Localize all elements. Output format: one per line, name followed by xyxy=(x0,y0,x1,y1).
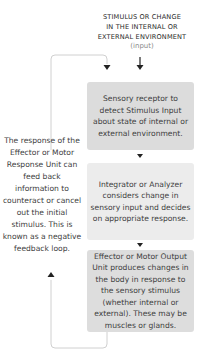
feedback-arrow-up-icon xyxy=(48,272,55,277)
step-label: Sensory receptor to detect Stimulus Inpu… xyxy=(90,93,191,139)
arrow-down-icon xyxy=(137,243,143,247)
arrow-down-icon xyxy=(137,154,143,158)
effector-box: Effector or Motor Output Unit produces c… xyxy=(87,250,194,332)
step-label: Effector or Motor Output Unit produces c… xyxy=(90,251,191,332)
stimulus-title: STIMULUS OR CHANGE IN THE INTERNAL OR EX… xyxy=(82,12,202,42)
title-line: STIMULUS OR CHANGE xyxy=(82,12,202,22)
feedback-note: The response of the Effector or Motor Re… xyxy=(2,135,82,255)
title-line: EXTERNAL ENVIRONMENT xyxy=(82,32,202,42)
sensory-receptor-box: Sensory receptor to detect Stimulus Inpu… xyxy=(87,82,194,150)
integrator-box: Integrator or Analyzer considers change … xyxy=(87,163,194,240)
step-label: Integrator or Analyzer considers change … xyxy=(90,179,191,225)
title-line: IN THE INTERNAL OR xyxy=(82,22,202,32)
feedback-arrow-down-icon xyxy=(104,65,111,70)
input-label: (input) xyxy=(82,42,202,50)
stimulus-arrow-down-icon xyxy=(137,65,144,70)
